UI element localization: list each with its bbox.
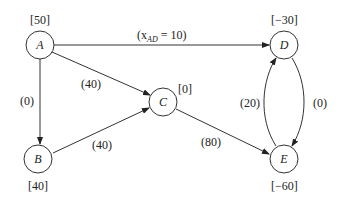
node-b-supply: [40] — [28, 180, 48, 192]
edge-label-a-d: (xAD = 10) — [137, 29, 186, 44]
edge-label-c-e: (80) — [201, 136, 221, 148]
node-e-name: E — [270, 153, 298, 165]
edge-label-b-c: (40) — [92, 139, 112, 151]
node-e-supply: [−60] — [271, 180, 298, 192]
node-b-name: B — [24, 153, 52, 165]
edge-c-e — [176, 109, 269, 154]
edge-label-d-e: (0) — [313, 97, 327, 109]
node-c-supply: [0] — [178, 83, 192, 95]
node-d-supply: [−30] — [271, 14, 298, 26]
edge-d-e — [292, 58, 304, 146]
edge-label-e-d: (20) — [240, 97, 260, 109]
node-a-name: A — [26, 39, 54, 51]
edge-label-a-b: (0) — [20, 95, 34, 107]
node-d-name: D — [270, 39, 298, 51]
edge-a-c — [52, 52, 150, 95]
edge-label-a-c: (40) — [81, 78, 101, 90]
node-c-name: C — [149, 96, 177, 108]
edge-e-d — [264, 58, 276, 146]
node-a-supply: [50] — [30, 14, 50, 26]
